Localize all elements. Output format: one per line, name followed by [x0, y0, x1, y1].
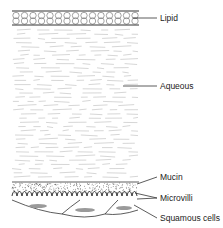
squamous-leader — [134, 205, 157, 218]
microvilli-leader-2 — [137, 198, 157, 199]
leader-lines — [123, 18, 157, 218]
label-microvilli: Microvilli — [160, 193, 193, 203]
mucin-leader — [137, 177, 157, 184]
label-aqueous: Aqueous — [160, 81, 194, 91]
tear-film-diagram: Lipid Aqueous Mucin Microvilli Squamous … — [0, 0, 223, 228]
squamous-cells — [12, 200, 138, 217]
microvilli-leader-1 — [135, 193, 157, 198]
aqueous-layer — [12, 29, 138, 177]
label-lipid: Lipid — [160, 13, 178, 23]
label-squamous-cells: Squamous cells — [160, 213, 220, 223]
lipid-layer — [12, 11, 139, 25]
microvilli-layer — [12, 192, 137, 197]
label-mucin: Mucin — [160, 172, 183, 182]
